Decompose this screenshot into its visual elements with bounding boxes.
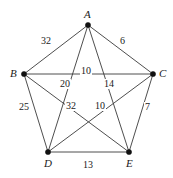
edge-weight-b-e: 32 (65, 101, 77, 111)
vertex-dot-d (45, 149, 50, 154)
graph-canvas (0, 0, 173, 178)
vertex-label-e: E (126, 158, 133, 169)
vertex-label-c: C (159, 68, 166, 79)
edge-weight-a-b: 32 (40, 36, 52, 46)
edge-weight-d-e: 13 (82, 160, 94, 170)
edge-weight-b-d: 25 (18, 102, 30, 112)
graph-diagram: 326102014257321013 ABCDE (0, 0, 173, 178)
edge-c-e (129, 74, 153, 152)
edge-weight-b-c: 10 (80, 66, 92, 76)
vertex-label-b: B (10, 68, 17, 79)
edge-weight-a-e: 14 (103, 79, 115, 89)
vertex-dot-e (126, 149, 131, 154)
edge-b-d (24, 74, 48, 152)
edge-a-b (24, 25, 88, 74)
vertex-label-a: A (84, 9, 91, 20)
vertex-dot-c (150, 71, 155, 76)
vertex-dot-b (21, 71, 26, 76)
edge-weight-a-d: 20 (59, 79, 71, 89)
edge-a-c (88, 25, 153, 74)
vertex-dot-a (85, 22, 90, 27)
edge-weight-c-d: 10 (94, 101, 106, 111)
edge-weight-a-c: 6 (119, 36, 126, 46)
vertex-label-d: D (44, 158, 52, 169)
edge-weight-c-e: 7 (144, 102, 151, 112)
